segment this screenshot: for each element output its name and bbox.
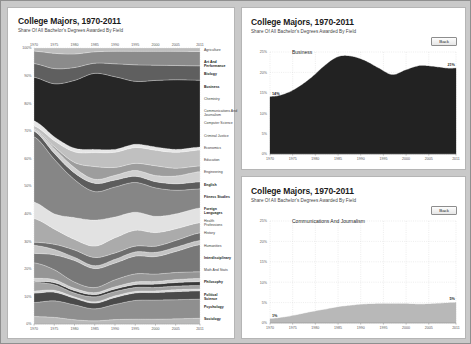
overview-category-label[interactable]: Criminal Justice [204,134,229,138]
overview-category-label[interactable]: History [204,231,215,235]
svg-detail-top-ytick: 5% [262,132,268,136]
overview-category-label[interactable]: Computer Science [204,121,233,125]
overview-ytick: 10% [24,295,32,299]
svg-detail-top-area[interactable] [270,56,456,154]
svg-detail-bottom-xtick: 1990 [357,326,365,330]
svg-detail-top-xtick: 1990 [357,157,365,161]
svg-detail-bottom-ytick: 0% [262,321,268,325]
overview-category-label[interactable]: Business [204,85,220,89]
svg-detail-bottom-series-name: Communications And Journalism [292,218,365,224]
overview-category-label[interactable]: Biology [204,72,217,76]
overview-category-label[interactable]: Education [204,158,220,162]
overview-category-label[interactable]: Chemistry [204,97,220,101]
overview-xtick: 1985 [91,327,99,331]
svg-detail-bottom-xtick: 2005 [425,326,433,330]
svg-detail-top-xtick: 1970 [266,157,274,161]
overview-category-label[interactable]: Journalism [204,113,221,117]
overview-category-label[interactable]: Philosophy [204,280,223,284]
detail-bottom-plot[interactable]: Communications And Journalism19701975198… [242,177,467,340]
svg-detail-bottom-xtick: 1980 [311,326,319,330]
overview-ytick: 60% [24,157,32,161]
overview-xtick: 1980 [70,327,78,331]
overview-category-label[interactable]: Languages [204,211,223,215]
svg-detail-bottom-ytick: 25% [260,219,268,223]
detail-top-plot[interactable]: Business19701975198019851990199520002005… [242,8,467,171]
overview-xtick-top: 1990 [111,43,119,47]
overview-xtick: 2011 [196,327,204,331]
svg-detail-top-ytick: 15% [260,91,268,95]
overview-plot[interactable]: 1970197019751975198019801985198519901990… [8,8,236,340]
svg-detail-top-xtick: 2011 [452,157,460,161]
detail-bottom-svg: Communications And Journalism19701975198… [242,177,467,340]
overview-xtick: 2000 [151,327,159,331]
overview-ytick: 40% [24,212,32,216]
overview-category-label[interactable]: Agriculture [204,48,221,52]
svg-detail-top-xtick: 1995 [379,157,387,161]
overview-category-label[interactable]: Economics [204,146,221,150]
overview-category-label[interactable]: Engineering [204,170,223,174]
svg-detail-bottom-end-value-label: 5% [450,297,456,301]
overview-category-label[interactable]: English [204,183,217,187]
overview-ytick: 90% [24,74,32,78]
svg-detail-top-xtick: 1980 [311,157,319,161]
overview-xtick: 1995 [131,327,139,331]
svg-detail-bottom-start-value-label: 1% [272,314,278,318]
overview-category-label[interactable]: Humanities [204,244,222,248]
overview-ytick: 100% [22,46,32,50]
detail-top-svg: Business19701975198019851990199520002005… [242,8,467,171]
overview-ytick: 80% [24,102,32,106]
svg-detail-top-series-name: Business [292,49,313,55]
overview-ytick: 20% [24,267,32,271]
overview-xtick: 1990 [111,327,119,331]
overview-ytick: 70% [24,129,32,133]
svg-detail-bottom-ytick: 10% [260,281,268,285]
svg-detail-bottom-ytick: 5% [262,301,268,305]
overview-xtick: 2005 [172,327,180,331]
svg-detail-bottom-area[interactable] [270,303,456,323]
svg-detail-top-ytick: 10% [260,112,268,116]
overview-ytick: 30% [24,240,32,244]
overview-area-business[interactable] [34,73,200,150]
svg-detail-bottom-ytick: 15% [260,260,268,264]
overview-category-label[interactable]: Fitness Studies [204,195,230,199]
overview-ytick: 50% [24,184,32,188]
overview-category-label[interactable]: Interdisciplinary [204,256,231,260]
overview-xtick-top: 1995 [131,43,139,47]
svg-detail-bottom-xtick: 1985 [334,326,342,330]
svg-detail-bottom-xtick: 2000 [402,326,410,330]
svg-detail-top-xtick: 2000 [402,157,410,161]
svg-detail-top-ytick: 25% [260,50,268,54]
overview-xtick-top: 2000 [151,43,159,47]
detail-top-chart-panel[interactable]: College Majors, 1970-2011 Share Of All B… [241,7,466,170]
overview-xtick-top: 1985 [91,43,99,47]
overview-xtick: 1970 [30,327,38,331]
svg-detail-top-ytick: 20% [260,71,268,75]
overview-chart-panel[interactable]: College Majors, 1970-2011 Share Of All B… [7,7,235,339]
dashboard-page: College Majors, 1970-2011 Share Of All B… [0,0,471,344]
overview-category-label[interactable]: Science [204,297,217,301]
overview-category-label[interactable]: Math And Stats [204,268,228,272]
overview-stacked-areas[interactable] [34,48,200,324]
detail-bottom-chart-panel[interactable]: College Majors, 1970-2011 Share Of All B… [241,176,466,339]
svg-detail-bottom-xtick: 1995 [379,326,387,330]
svg-detail-bottom-ytick: 20% [260,240,268,244]
overview-category-label[interactable]: Professions [204,223,223,227]
overview-svg: 1970197019751975198019801985198519901990… [8,8,236,340]
overview-xtick-top: 1980 [70,43,78,47]
svg-detail-bottom-xtick: 1975 [289,326,297,330]
svg-detail-top-start-value-label: 14% [272,92,280,96]
svg-detail-top-end-value-label: 21% [447,63,455,67]
overview-category-labels[interactable]: AgricultureArt AndPerformanceBiologyBusi… [204,48,237,321]
overview-xtick-top: 2005 [172,43,180,47]
svg-detail-top-xtick: 1975 [289,157,297,161]
overview-ytick: 0% [26,322,32,326]
overview-category-label[interactable]: Performance [204,64,225,68]
overview-xtick-top: 2011 [196,43,204,47]
svg-detail-bottom-xtick: 2011 [452,326,460,330]
svg-detail-top-xtick: 2005 [425,157,433,161]
overview-xtick: 1975 [50,327,58,331]
svg-detail-top-ytick: 0% [262,152,268,156]
overview-category-label[interactable]: Sociology [204,317,221,321]
overview-xtick-top: 1975 [50,43,58,47]
overview-category-label[interactable]: Psychology [204,305,224,309]
